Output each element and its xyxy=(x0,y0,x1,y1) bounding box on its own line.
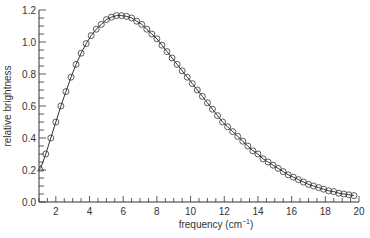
x-tick-label: 18 xyxy=(320,206,332,217)
x-tick-label: 16 xyxy=(286,206,298,217)
x-tick-label: 14 xyxy=(252,206,264,217)
x-axis-label-main: frequency (cm xyxy=(179,219,242,230)
x-axis-label: frequency (cm−1) xyxy=(179,218,254,230)
y-tick-label: 0.8 xyxy=(22,69,36,80)
x-tick-label: 12 xyxy=(219,206,231,217)
x-tick-label: 10 xyxy=(185,206,197,217)
data-markers xyxy=(38,13,357,199)
y-tick-label: 1.0 xyxy=(22,37,36,48)
x-tick-label: 2 xyxy=(53,206,59,217)
x-axis-label-close: ) xyxy=(250,219,253,230)
x-axis-label-superscript: −1 xyxy=(242,218,250,225)
x-tick-label: 20 xyxy=(353,206,365,217)
y-tick-label: 0.2 xyxy=(22,165,36,176)
x-tick-label: 4 xyxy=(87,206,93,217)
ticks xyxy=(39,10,359,202)
tick-labels: 24681012141618200.00.20.40.60.81.01.2 xyxy=(22,5,365,218)
y-tick-label: 0.4 xyxy=(22,133,36,144)
y-axis-label: relative brightness xyxy=(2,65,13,146)
chart-figure: 24681012141618200.00.20.40.60.81.01.2 re… xyxy=(0,0,370,238)
y-tick-label: 0.6 xyxy=(22,101,36,112)
axes xyxy=(39,10,359,202)
x-tick-label: 6 xyxy=(120,206,126,217)
y-tick-label: 1.2 xyxy=(22,5,36,16)
chart-svg: 24681012141618200.00.20.40.60.81.01.2 re… xyxy=(0,0,370,238)
theory-curve-line xyxy=(41,16,354,196)
y-tick-label: 0.0 xyxy=(22,197,36,208)
x-tick-label: 8 xyxy=(154,206,160,217)
